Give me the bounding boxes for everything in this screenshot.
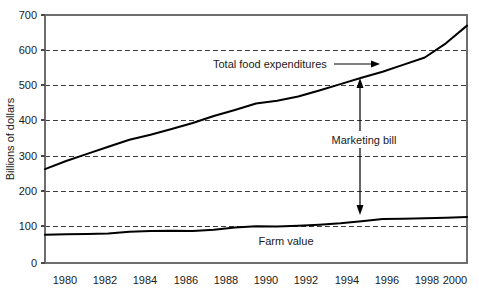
x-tick-label-1986: 1986 <box>174 274 198 286</box>
y-tick-label-300: 300 <box>19 150 37 162</box>
y-tick-label-200: 200 <box>19 185 37 197</box>
x-tick-label-1992: 1992 <box>294 274 318 286</box>
y-tick-label-400: 400 <box>19 114 37 126</box>
y-tick-label-0: 0 <box>31 257 37 269</box>
marketing-bill-label: Marketing bill <box>332 134 397 146</box>
food-expenditures-line-chart: 700 600 500 400 300 200 100 0 Billions o… <box>0 0 479 298</box>
y-tick-label-500: 500 <box>19 79 37 91</box>
y-tick-label-100: 100 <box>19 220 37 232</box>
x-tick-label-1984: 1984 <box>133 274 157 286</box>
x-tick-label-1998: 1998 <box>415 274 439 286</box>
y-axis-tick-labels: 700 600 500 400 300 200 100 0 <box>19 9 37 269</box>
total-food-expenditures-label: Total food expenditures <box>213 58 327 70</box>
x-tick-label-1988: 1988 <box>214 274 238 286</box>
x-tick-label-1994: 1994 <box>335 274 359 286</box>
x-axis-tick-labels: 1980 1982 1984 1986 1988 1990 1992 1994 … <box>53 274 467 286</box>
y-tick-label-700: 700 <box>19 9 37 21</box>
x-tick-label-1982: 1982 <box>93 274 117 286</box>
chart-figure: 700 600 500 400 300 200 100 0 Billions o… <box>0 0 479 298</box>
x-tick-label-1990: 1990 <box>254 274 278 286</box>
x-tick-label-2000: 2000 <box>443 274 467 286</box>
farm-value-label: Farm value <box>258 235 313 247</box>
x-tick-label-1996: 1996 <box>375 274 399 286</box>
y-tick-label-600: 600 <box>19 44 37 56</box>
y-axis-title: Billions of dollars <box>4 97 16 180</box>
annotation-farm-value: Farm value <box>258 235 313 247</box>
x-tick-label-1980: 1980 <box>53 274 77 286</box>
